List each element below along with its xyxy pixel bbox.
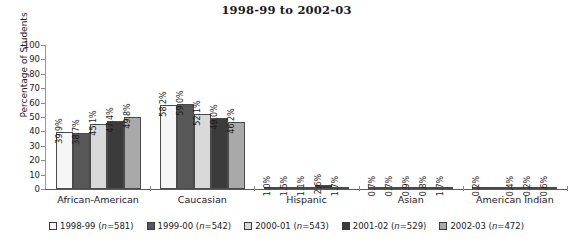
x-axis-category-label: Caucasian [150, 194, 254, 205]
bar[interactable]: 0.6% [540, 187, 557, 189]
bar-slot: 49.0% [211, 45, 228, 189]
x-axis-category-label: Asian [359, 194, 463, 205]
y-axis-tick-mark [41, 189, 45, 190]
bar[interactable]: 2.6% [315, 185, 332, 189]
x-axis-line [45, 189, 567, 190]
y-axis-tick-label: 60 [14, 99, 40, 107]
y-axis-tick-label: 30 [14, 142, 40, 150]
legend-swatch [49, 222, 57, 230]
bar-slot: 58.2% [160, 45, 177, 189]
bar[interactable]: 52.1% [194, 114, 211, 189]
y-axis-tick-label: 20 [14, 156, 40, 164]
bar-value-label: 39.9% [56, 118, 64, 143]
bar-slot: 39.9% [56, 45, 73, 189]
y-axis-tick-mark [41, 88, 45, 89]
legend-item[interactable]: 1999-00 (n=542) [147, 221, 232, 231]
bar-value-label: 58.2% [160, 91, 168, 116]
bar-group: 0.7%0.7%0.9%0.8%1.7% [359, 45, 463, 189]
bar-value-label: 2.6% [315, 174, 323, 194]
bar-slot: 0.4% [506, 45, 523, 189]
bar[interactable]: 0.2% [523, 187, 540, 189]
legend-item[interactable]: 1998-99 (n=581) [49, 221, 134, 231]
y-axis-tick-mark [41, 74, 45, 75]
bar[interactable]: 58.2% [160, 105, 177, 189]
x-axis-tick-mark [567, 186, 568, 191]
bar-value-label: 1.7% [437, 175, 445, 195]
bar-slot: 1.0% [264, 45, 281, 189]
x-axis-category-label: Hispanic [254, 194, 358, 205]
bar[interactable]: 1.0% [264, 187, 281, 189]
bar-value-label: 47.4% [107, 107, 115, 132]
bar-slot: 0.2% [472, 45, 489, 189]
bar[interactable]: 1.7% [436, 187, 453, 189]
y-axis-tick-label: 0 [14, 185, 40, 193]
bar[interactable]: 1.7% [332, 187, 349, 189]
legend-label: 2001-02 (n=529) [353, 221, 427, 231]
y-axis-tick-label: 80 [14, 70, 40, 78]
bar[interactable]: 1.1% [298, 187, 315, 189]
bar[interactable]: 39.9% [56, 132, 73, 189]
y-axis-tick-mark [41, 103, 45, 104]
bar-group: 58.2%59.0%52.1%49.0%46.2% [150, 45, 254, 189]
bar[interactable]: 59.0% [177, 104, 194, 189]
legend-swatch [439, 222, 447, 230]
bar-slot: 47.4% [107, 45, 124, 189]
bar[interactable]: 0.8% [419, 187, 436, 189]
bar-group: 39.9%38.7%45.1%47.4%49.8% [46, 45, 150, 189]
x-axis-tick-mark [254, 186, 255, 191]
bar-slot: 59.0% [177, 45, 194, 189]
bar[interactable]: 0.4% [506, 187, 523, 189]
y-axis-ticks: 1009080706050403020100 [14, 40, 40, 192]
bar-slot: 45.1% [90, 45, 107, 189]
bar[interactable]: 0.2% [472, 187, 489, 189]
chart-title: 1998-99 to 2002-03 [0, 3, 573, 17]
bar-slot: 0.7% [368, 45, 385, 189]
bar-value-label: 49.0% [211, 105, 219, 130]
bar-group: 0.2%0.4%0.2%0.6% [463, 45, 567, 189]
bar-slot: 0.2% [523, 45, 540, 189]
bar-slot: 1.1% [298, 45, 315, 189]
y-axis-tick-mark [41, 131, 45, 132]
bar[interactable]: 0.9% [402, 187, 419, 189]
legend-swatch [147, 222, 155, 230]
bar-slot: 52.1% [194, 45, 211, 189]
bar-value-label: 45.1% [90, 110, 98, 135]
bar-slot [489, 45, 506, 189]
legend-item[interactable]: 2002-03 (n=472) [439, 221, 524, 231]
bar[interactable]: 0.7% [368, 187, 385, 189]
legend-label: 2000-01 (n=543) [255, 221, 329, 231]
legend-label: 2002-03 (n=472) [450, 221, 524, 231]
y-axis-tick-label: 100 [14, 41, 40, 49]
bar-value-label: 38.7% [73, 120, 81, 145]
bar-slot: 0.8% [419, 45, 436, 189]
bar-value-label: 1.5% [281, 176, 289, 196]
legend-item[interactable]: 2000-01 (n=543) [244, 221, 329, 231]
x-axis-category-label: African-American [46, 194, 150, 205]
bar[interactable]: 46.2% [228, 122, 245, 189]
bar-slot: 0.6% [540, 45, 557, 189]
bar[interactable] [489, 187, 506, 189]
x-axis-tick-mark [150, 186, 151, 191]
legend-item[interactable]: 2001-02 (n=529) [342, 221, 427, 231]
legend-swatch [342, 222, 350, 230]
bar-slot: 0.9% [402, 45, 419, 189]
x-axis-category-label: American Indian [463, 194, 567, 205]
bar[interactable]: 49.0% [211, 118, 228, 189]
bar[interactable]: 1.5% [281, 187, 298, 189]
bar[interactable]: 49.8% [124, 117, 141, 189]
x-axis-tick-mark [359, 186, 360, 191]
bar[interactable]: 38.7% [73, 133, 90, 189]
bar[interactable]: 0.7% [385, 187, 402, 189]
bar-slot: 38.7% [73, 45, 90, 189]
bar-slot: 1.5% [281, 45, 298, 189]
bar-value-label: 59.0% [177, 90, 185, 115]
bar-value-label: 52.1% [194, 100, 202, 125]
chart-container: 1998-99 to 2002-03 Percentage of Student… [0, 0, 573, 239]
legend-label: 1999-00 (n=542) [158, 221, 232, 231]
y-axis-tick-mark [41, 175, 45, 176]
y-axis-tick-label: 50 [14, 113, 40, 121]
bar[interactable]: 45.1% [90, 124, 107, 189]
x-axis-tick-mark [463, 186, 464, 191]
legend-label: 1998-99 (n=581) [60, 221, 134, 231]
bar[interactable]: 47.4% [107, 121, 124, 189]
